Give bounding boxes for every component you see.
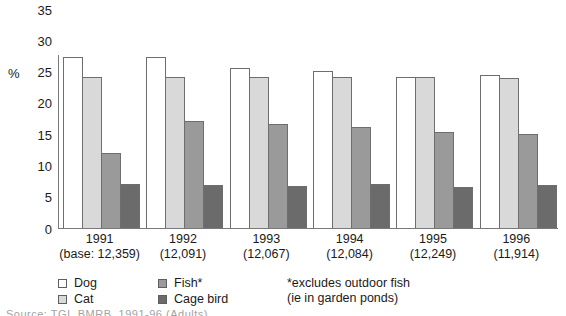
bar-1996-dog	[480, 75, 500, 228]
bar-1993-fish	[268, 124, 288, 228]
bar-1994-fish	[351, 127, 371, 228]
y-tick-0: 0	[45, 223, 52, 236]
legend-item-dog[interactable]: Dog	[58, 276, 97, 290]
source-note: Source: TGI, BMRB, 1991-96 (Adults)	[6, 308, 306, 316]
x-axis-category-labels: 1991(base: 12,359)1992(12,091)1993(12,06…	[58, 232, 558, 266]
pet-ownership-bar-chart: % 35302520151050 1991(base: 12,359)1992(…	[0, 0, 566, 316]
footnote-line-1: *excludes outdoor fish	[287, 276, 410, 291]
x-label-base: (12,249)	[391, 247, 474, 262]
bar-1991-cat	[82, 77, 102, 228]
x-label-year: 1996	[475, 232, 558, 247]
y-tick-10: 10	[38, 160, 52, 173]
x-label-year: 1991	[58, 232, 141, 247]
x-label-base: (11,914)	[475, 247, 558, 262]
x-label-1996: 1996(11,914)	[475, 232, 558, 266]
bar-1995-cagebird	[453, 187, 473, 228]
bar-group-1991	[58, 10, 141, 228]
x-axis-line	[58, 228, 558, 229]
x-label-year: 1995	[391, 232, 474, 247]
legend-item-fish[interactable]: Fish*	[158, 276, 202, 290]
legend-label: Cat	[74, 292, 93, 306]
bar-group-1993	[225, 10, 308, 228]
x-label-1991: 1991(base: 12,359)	[58, 232, 141, 266]
bar-1996-fish	[518, 134, 538, 228]
bar-group-1995	[391, 10, 474, 228]
bar-1994-cat	[332, 77, 352, 228]
bar-1993-dog	[230, 68, 250, 228]
x-label-year: 1993	[225, 232, 308, 247]
footnote-line-2: (ie in garden ponds)	[287, 291, 410, 306]
x-label-year: 1994	[308, 232, 391, 247]
y-axis-tick-labels: 35302520151050	[0, 0, 58, 240]
x-label-year: 1992	[141, 232, 224, 247]
legend-item-cagebird[interactable]: Cage bird	[158, 292, 228, 306]
bar-1996-cat	[499, 78, 519, 228]
bar-1995-dog	[396, 77, 416, 228]
bar-group-1996	[475, 10, 558, 228]
bar-group-1992	[141, 10, 224, 228]
legend-label: Fish*	[174, 276, 202, 290]
bar-1991-cagebird	[120, 184, 140, 228]
bar-1995-fish	[434, 132, 454, 228]
bar-1992-cagebird	[203, 185, 223, 228]
y-tick-20: 20	[38, 97, 52, 110]
y-tick-35: 35	[38, 4, 52, 17]
x-label-base: (12,084)	[308, 247, 391, 262]
bar-1994-dog	[313, 71, 333, 228]
bar-group-1994	[308, 10, 391, 228]
legend-item-cat[interactable]: Cat	[58, 292, 93, 306]
bar-1995-cat	[415, 77, 435, 228]
y-tick-15: 15	[38, 129, 52, 142]
bar-1991-dog	[63, 57, 83, 228]
x-label-base: (12,091)	[141, 247, 224, 262]
x-label-1994: 1994(12,084)	[308, 232, 391, 266]
legend: DogCatFish*Cage bird	[58, 276, 268, 308]
legend-swatch-icon	[58, 295, 67, 304]
legend-swatch-icon	[58, 279, 67, 288]
x-label-1992: 1992(12,091)	[141, 232, 224, 266]
bar-groups	[58, 10, 558, 228]
plot-area	[58, 10, 558, 229]
bar-1992-dog	[146, 57, 166, 228]
chart-footnote: *excludes outdoor fish (ie in garden pon…	[287, 276, 410, 306]
x-label-1995: 1995(12,249)	[391, 232, 474, 266]
bar-1994-cagebird	[370, 184, 390, 228]
bar-1993-cagebird	[287, 186, 307, 228]
x-label-1993: 1993(12,067)	[225, 232, 308, 266]
bar-1992-cat	[165, 77, 185, 228]
legend-swatch-icon	[158, 295, 167, 304]
x-label-base: (base: 12,359)	[58, 247, 141, 262]
bar-1996-cagebird	[537, 185, 557, 228]
bar-1993-cat	[249, 77, 269, 228]
legend-label: Dog	[74, 276, 97, 290]
legend-swatch-icon	[158, 279, 167, 288]
y-tick-25: 25	[38, 66, 52, 79]
y-tick-30: 30	[38, 35, 52, 48]
y-tick-5: 5	[45, 191, 52, 204]
bar-1992-fish	[184, 121, 204, 228]
bar-1991-fish	[101, 153, 121, 228]
x-label-base: (12,067)	[225, 247, 308, 262]
legend-label: Cage bird	[174, 292, 228, 306]
